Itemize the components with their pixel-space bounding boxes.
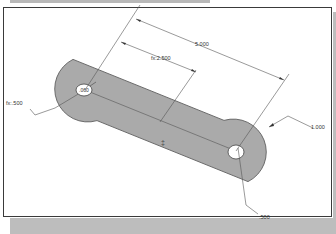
arrow-icon xyxy=(269,123,274,127)
dim-text-end-radius[interactable]: fx:.500 xyxy=(6,100,23,106)
arrow-icon xyxy=(191,69,196,72)
arrow-icon xyxy=(136,19,141,22)
dim-text-half[interactable]: fx:2.500 xyxy=(151,55,171,61)
dim-text-overall[interactable]: 5.000 xyxy=(195,41,209,47)
arrow-icon xyxy=(279,77,284,80)
dim-text-hole-right[interactable]: .500 xyxy=(259,214,270,220)
center-marker: ‡ xyxy=(161,139,165,146)
leader-end-radius xyxy=(30,108,55,115)
dim-text-hole-left[interactable]: .060 xyxy=(79,87,89,93)
dim-line-overall xyxy=(136,19,284,80)
dim-text-width[interactable]: 1.000 xyxy=(311,124,325,130)
arrow-icon xyxy=(121,42,126,45)
leader-width xyxy=(269,116,313,128)
hole-right[interactable] xyxy=(228,145,244,159)
cad-drawing[interactable]: ‡ 5.000 fx:2.500 fx:.500 1.000 .500 .060 xyxy=(0,0,336,234)
